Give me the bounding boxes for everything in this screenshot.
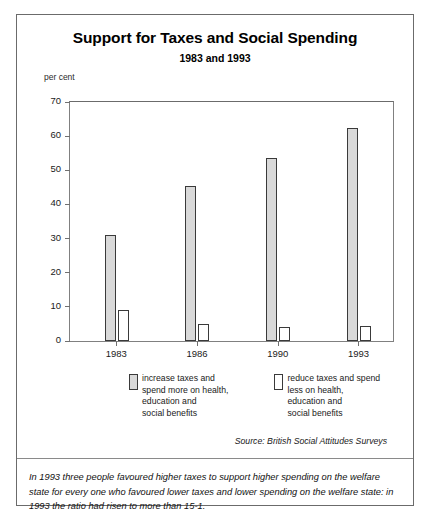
y-axis-tick-label: 50	[50, 163, 61, 174]
title-block: Support for Taxes and Social Spending 19…	[17, 29, 413, 64]
footnote-divider	[17, 458, 413, 459]
legend-entry: reduce taxes and spend less on health, e…	[274, 373, 380, 419]
x-axis-tick-mark	[116, 341, 117, 346]
x-axis-tick-label: 1993	[348, 348, 369, 359]
chart-subtitle: 1983 and 1993	[17, 52, 413, 64]
bar	[279, 327, 290, 341]
bar	[185, 186, 196, 341]
x-axis-tick-mark	[278, 341, 279, 346]
legend-swatch	[129, 374, 138, 390]
y-axis-tick-mark	[65, 272, 70, 273]
y-axis-tick-label: 0	[56, 334, 61, 345]
figure-frame: Support for Taxes and Social Spending 19…	[16, 14, 414, 506]
plot-area: 0102030405060701983198619901993	[69, 101, 394, 342]
legend-entry: increase taxes and spend more on health,…	[129, 373, 228, 419]
y-axis-tick-label: 40	[50, 197, 61, 208]
y-axis-tick-label: 20	[50, 266, 61, 277]
footnote-text: In 1993 three people favoured higher tax…	[29, 470, 399, 514]
y-axis-tick-label: 30	[50, 232, 61, 243]
y-axis-tick-mark	[65, 136, 70, 137]
y-axis-tick-label: 10	[50, 300, 61, 311]
bar	[198, 324, 209, 341]
legend-swatch	[274, 374, 283, 390]
y-axis-tick-mark	[65, 204, 70, 205]
source-note: Source: British Social Attitudes Surveys	[235, 436, 387, 446]
bar	[266, 158, 277, 341]
y-axis-tick-mark	[65, 306, 70, 307]
y-axis-tick-mark	[65, 170, 70, 171]
x-axis-tick-label: 1990	[267, 348, 288, 359]
x-axis-tick-label: 1986	[186, 348, 207, 359]
x-axis-tick-mark	[197, 341, 198, 346]
bar	[118, 310, 129, 341]
y-axis-tick-mark	[65, 102, 70, 103]
x-axis-tick-mark	[358, 341, 359, 346]
x-axis-tick-label: 1983	[106, 348, 127, 359]
bar	[360, 326, 371, 341]
bar	[105, 235, 116, 341]
chart-legend: increase taxes and spend more on health,…	[129, 373, 380, 419]
legend-label: increase taxes and spend more on health,…	[142, 373, 228, 419]
y-axis-tick-label: 70	[50, 95, 61, 106]
y-axis-tick-mark	[65, 341, 70, 342]
y-axis-tick-mark	[65, 238, 70, 239]
y-axis-tick-label: 60	[50, 129, 61, 140]
chart-title: Support for Taxes and Social Spending	[17, 29, 413, 47]
bar	[347, 128, 358, 341]
legend-label: reduce taxes and spend less on health, e…	[287, 373, 380, 419]
y-axis-unit-label: per cent	[44, 72, 75, 82]
